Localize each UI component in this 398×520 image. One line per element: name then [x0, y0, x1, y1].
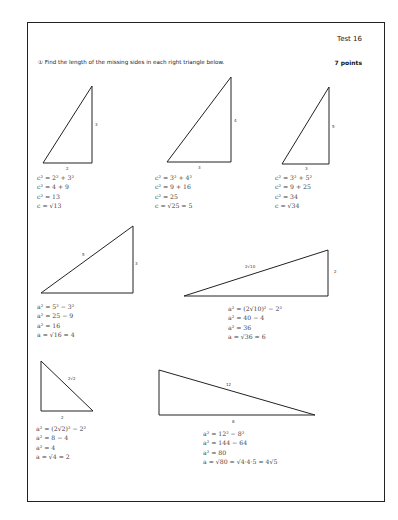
triangle-7: 12 8 [0, 0, 398, 520]
svg-text:12: 12 [226, 382, 232, 387]
svg-text:8: 8 [232, 419, 235, 424]
work-7: a² = 12² − 8²a² = 144 − 64 a² = 80a = √8… [203, 429, 277, 466]
